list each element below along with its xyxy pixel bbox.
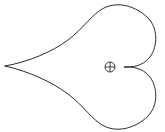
figure-background — [0, 0, 165, 132]
centroid-marker — [105, 62, 115, 72]
cardioid-figure — [0, 0, 165, 132]
figure-canvas: Cardioid outline with centroid marker — [0, 0, 165, 132]
